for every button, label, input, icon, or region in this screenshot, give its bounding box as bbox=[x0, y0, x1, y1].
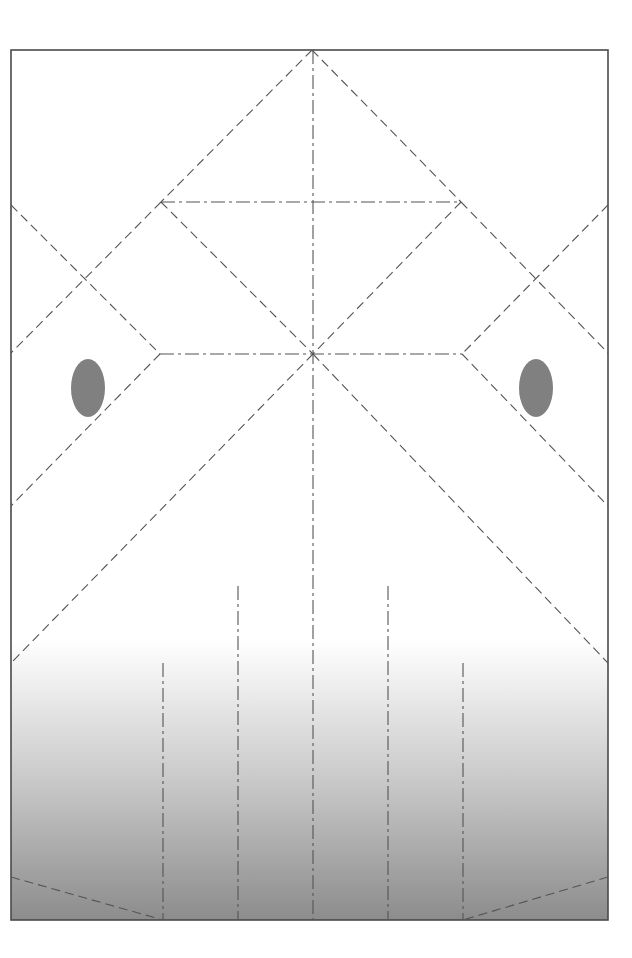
upper-left-to-left-edge bbox=[11, 202, 161, 353]
horizontal-guide-lines bbox=[160, 202, 462, 354]
upper-left-to-center bbox=[161, 202, 313, 354]
center-to-bottom-left-edge bbox=[11, 354, 313, 663]
left-edge-to-mid-left bbox=[11, 205, 160, 354]
ground-gradient-fill bbox=[11, 640, 608, 920]
apex-to-upper-right bbox=[312, 50, 461, 202]
technical-line-diagram bbox=[0, 0, 632, 958]
diagram-canvas bbox=[0, 0, 632, 958]
apex-to-upper-left bbox=[161, 50, 312, 202]
oval-markers bbox=[71, 359, 553, 417]
upper-right-to-right-edge bbox=[461, 202, 608, 353]
upper-right-to-center bbox=[313, 202, 461, 354]
right-oval-marker bbox=[519, 359, 553, 417]
center-to-bottom-right-edge bbox=[313, 354, 608, 663]
left-oval-marker bbox=[71, 359, 105, 417]
right-edge-to-mid-right bbox=[462, 205, 608, 354]
